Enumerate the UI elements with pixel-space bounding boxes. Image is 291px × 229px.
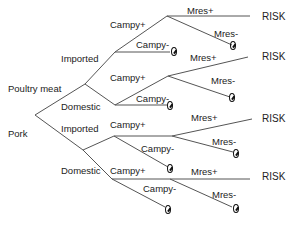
node-campy-pos: Campy+: [110, 20, 146, 30]
null-terminal-icon: [230, 41, 236, 50]
node-poultry-meat: Poultry meat: [8, 84, 61, 94]
node-mres-neg: Mres-: [212, 190, 236, 200]
node-mres-neg: Mres-: [211, 76, 235, 86]
null-terminal-icon: [233, 204, 239, 213]
node-pork-domestic: Domestic: [61, 166, 101, 176]
outcome-risk: RISK: [262, 114, 285, 124]
node-mres-neg: Mres-: [214, 29, 238, 39]
node-mres-neg: Mres-: [212, 137, 236, 147]
node-campy-neg: Campy-: [141, 144, 174, 154]
node-mres-pos: Mres+: [191, 113, 218, 123]
node-pork: Pork: [8, 129, 28, 139]
node-campy-neg: Campy-: [136, 94, 169, 104]
event-tree-lines: [0, 0, 291, 229]
node-poultry-imported: Imported: [61, 54, 99, 64]
null-terminal-icon: [233, 149, 239, 158]
node-campy-pos: Campy+: [110, 166, 146, 176]
null-terminal-icon: [167, 164, 173, 173]
outcome-risk: RISK: [262, 52, 285, 62]
node-campy-pos: Campy+: [110, 73, 146, 83]
node-campy-pos: Campy+: [110, 120, 146, 130]
outcome-risk: RISK: [262, 12, 285, 22]
null-terminal-icon: [171, 47, 177, 56]
outcome-risk: RISK: [262, 172, 285, 182]
null-terminal-icon: [167, 101, 173, 110]
node-pork-imported: Imported: [61, 124, 99, 134]
node-mres-pos: Mres+: [191, 167, 218, 177]
node-campy-neg: Campy-: [143, 184, 176, 194]
node-mres-pos: Mres+: [187, 6, 214, 16]
node-poultry-domestic: Domestic: [61, 102, 101, 112]
node-campy-neg: Campy-: [136, 40, 169, 50]
null-terminal-icon: [229, 93, 235, 102]
null-terminal-icon: [165, 205, 171, 214]
node-mres-pos: Mres+: [190, 53, 217, 63]
